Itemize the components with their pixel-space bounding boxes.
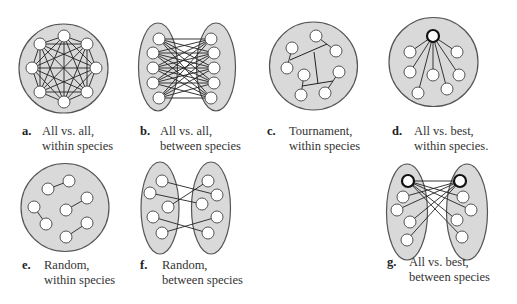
individual-node xyxy=(319,87,331,99)
individual-node xyxy=(397,191,409,203)
individual-node xyxy=(90,62,102,74)
individual-node xyxy=(147,77,159,89)
caption-line-1: All vs. best, xyxy=(414,124,488,139)
caption-line-1: Tournament, xyxy=(289,124,360,139)
panel-e xyxy=(21,164,109,252)
individual-node xyxy=(81,192,93,204)
individual-node xyxy=(441,83,453,95)
individual-node xyxy=(147,47,159,59)
individual-node xyxy=(42,183,54,195)
individual-node xyxy=(58,30,70,42)
individual-node xyxy=(156,175,168,187)
caption-letter: f. xyxy=(140,258,147,273)
individual-node xyxy=(427,69,439,81)
individual-node xyxy=(451,214,463,226)
individual-node xyxy=(153,92,165,104)
caption-line-1: Random, xyxy=(44,258,115,273)
individual-node xyxy=(156,227,168,239)
individual-node xyxy=(40,218,52,230)
individual-node xyxy=(281,62,293,74)
individual-node xyxy=(412,87,424,99)
caption-line-2: within species xyxy=(44,273,115,288)
individual-node xyxy=(295,89,307,101)
panel-b xyxy=(139,23,236,111)
individual-node xyxy=(286,42,298,54)
individual-node xyxy=(208,47,220,59)
individual-node xyxy=(153,33,165,45)
caption-line-1: All vs. best, xyxy=(409,255,490,270)
individual-node xyxy=(147,62,159,74)
individual-node xyxy=(26,62,38,74)
individual-node xyxy=(404,46,416,58)
caption-line-2: between species xyxy=(162,273,243,288)
individual-node xyxy=(81,217,93,229)
individual-node xyxy=(147,211,159,223)
individual-node xyxy=(456,231,468,243)
individual-node xyxy=(391,204,403,216)
panel-d xyxy=(389,18,478,107)
individual-node xyxy=(60,231,72,243)
individual-node xyxy=(81,86,93,98)
individual-node xyxy=(202,175,214,187)
caption-line-2: between species xyxy=(409,270,490,285)
individual-node xyxy=(34,38,46,50)
caption-line-2: between species xyxy=(160,139,241,154)
individual-node xyxy=(453,69,465,81)
best-individual-node xyxy=(402,175,414,187)
individual-node xyxy=(208,62,220,74)
individual-node xyxy=(28,201,40,213)
individual-node xyxy=(205,92,217,104)
caption-line-1: Random, xyxy=(162,258,243,273)
caption-letter: c. xyxy=(267,124,276,139)
individual-node xyxy=(310,30,322,42)
panel-g xyxy=(387,164,488,260)
caption-letter: e. xyxy=(22,258,31,273)
individual-node xyxy=(144,187,156,199)
panel-f xyxy=(141,162,231,254)
individual-node xyxy=(401,234,413,246)
caption-line-2: within species xyxy=(289,139,360,154)
individual-node xyxy=(330,45,342,57)
individual-node xyxy=(298,69,310,81)
caption-letter: g. xyxy=(387,255,396,270)
individual-node xyxy=(196,198,208,210)
individual-node xyxy=(81,38,93,50)
caption-line-2: within species. xyxy=(414,139,488,154)
panel-c xyxy=(270,22,358,110)
caption-line-1: All vs. all, xyxy=(160,124,241,139)
individual-node xyxy=(465,204,477,216)
caption-letter: b. xyxy=(140,124,150,139)
individual-node xyxy=(58,96,70,108)
individual-node xyxy=(205,33,217,45)
caption-line-2: within species xyxy=(42,139,113,154)
individual-node xyxy=(404,216,416,228)
individual-node xyxy=(451,46,463,58)
individual-node xyxy=(457,191,469,203)
individual-node xyxy=(202,227,214,239)
individual-node xyxy=(211,189,223,201)
individual-node xyxy=(63,175,75,187)
individual-node xyxy=(162,201,174,213)
individual-node xyxy=(60,204,72,216)
best-individual-node xyxy=(427,30,439,42)
individual-node xyxy=(34,86,46,98)
caption-letter: a. xyxy=(22,124,31,139)
individual-node xyxy=(211,211,223,223)
individual-node xyxy=(333,66,345,78)
panel-a xyxy=(19,24,108,113)
best-individual-node xyxy=(454,175,466,187)
individual-node xyxy=(404,66,416,78)
individual-node xyxy=(208,77,220,89)
caption-line-1: All vs. all, xyxy=(42,124,113,139)
caption-letter: d. xyxy=(392,124,402,139)
